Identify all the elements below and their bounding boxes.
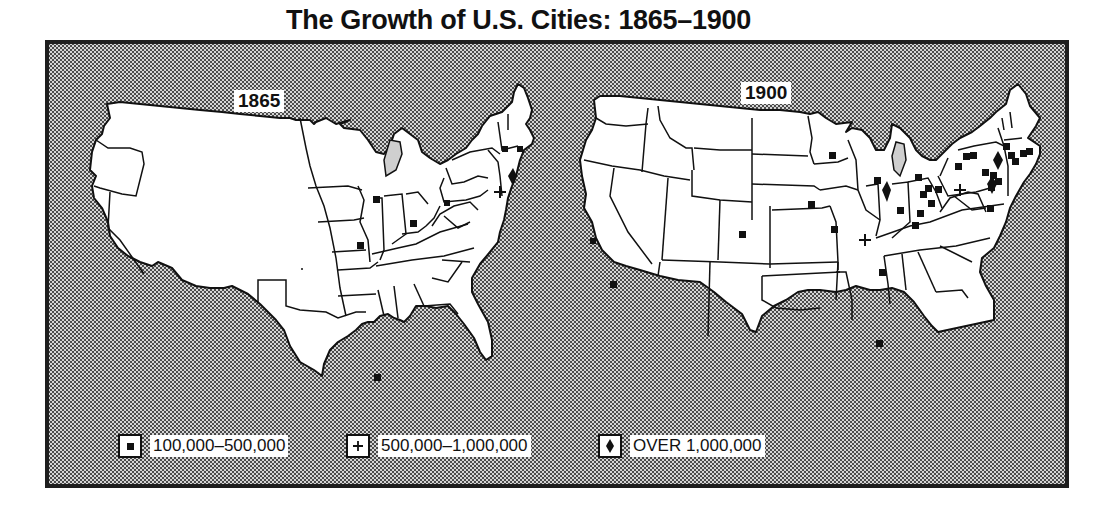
- city-marker: [829, 152, 836, 159]
- city-marker: [897, 207, 904, 214]
- plus-icon: [346, 434, 370, 458]
- city-marker: [876, 340, 883, 347]
- city-marker: [935, 186, 942, 193]
- city-marker: [610, 281, 617, 288]
- city-marker: [915, 174, 922, 181]
- legend-label: 500,000–1,000,000: [378, 435, 531, 457]
- city-marker: [920, 191, 927, 198]
- city-marker: [982, 169, 989, 176]
- city-marker: [1008, 152, 1015, 159]
- city-marker: [928, 200, 935, 207]
- city-marker: [912, 222, 919, 229]
- diamond-icon: [598, 434, 622, 458]
- city-marker: [917, 210, 924, 217]
- city-marker: [970, 152, 977, 159]
- year-label-1900: 1900: [741, 82, 791, 104]
- city-marker: [874, 177, 881, 184]
- city-marker: [925, 185, 932, 192]
- city-marker: [1012, 158, 1019, 165]
- city-marker: [1026, 148, 1033, 155]
- city-marker: [963, 153, 970, 160]
- city-marker: [808, 201, 815, 208]
- city-marker: [955, 163, 962, 170]
- square-icon: [118, 434, 142, 458]
- city-marker: [739, 231, 746, 238]
- legend-label: 100,000–500,000: [150, 435, 288, 457]
- city-marker: [879, 269, 886, 276]
- legend-label: OVER 1,000,000: [630, 435, 765, 457]
- city-marker: [1020, 150, 1027, 157]
- city-marker: [1003, 143, 1010, 150]
- legend-item-large-city: OVER 1,000,000: [598, 432, 765, 460]
- legend-item-small-city: 100,000–500,000: [118, 432, 288, 460]
- city-marker: [590, 238, 596, 244]
- city-marker: [987, 205, 994, 212]
- city-marker: [831, 226, 838, 233]
- legend-item-medium-city: 500,000–1,000,000: [346, 432, 531, 460]
